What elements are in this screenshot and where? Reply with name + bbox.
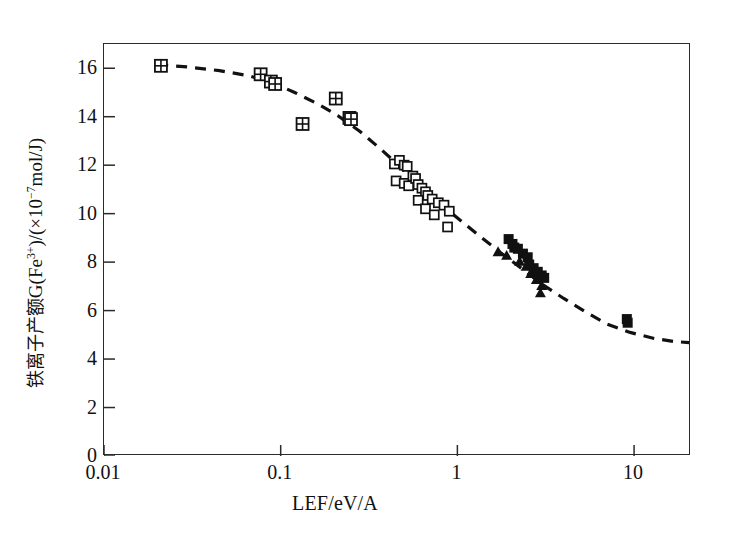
y-axis-title-sup-exponent: −7 xyxy=(25,186,38,199)
y-tick-label: 16 xyxy=(77,57,97,77)
x-tick-label: 1 xyxy=(451,462,461,482)
y-tick-label: 4 xyxy=(87,348,97,368)
x-axis-ticks xyxy=(104,445,634,456)
figure-root: 0246810121416 铁离子产额G(Fe3+)/(×10−7mol/J) … xyxy=(0,0,730,541)
y-axis-title-post: mol/J) xyxy=(25,138,46,187)
plot-area xyxy=(103,43,690,455)
y-axis-title-cjk: 铁离子产额 xyxy=(25,298,46,388)
y-tick-label: 12 xyxy=(77,154,97,174)
data-point-crossed-square xyxy=(345,113,357,125)
x-tick-label: 0.1 xyxy=(267,462,292,482)
y-tick-label: 6 xyxy=(87,300,97,320)
data-point-crossed-square xyxy=(297,118,309,130)
plot-canvas xyxy=(104,44,691,456)
y-axis-title: 铁离子产额G(Fe3+)/(×10−7mol/J) xyxy=(21,83,47,443)
y-tick-label: 2 xyxy=(87,397,97,417)
x-tick-label: 10 xyxy=(623,462,643,482)
data-points xyxy=(155,60,633,328)
y-axis-title-sup-charge: 3+ xyxy=(25,247,38,260)
data-point-open-square xyxy=(430,210,439,219)
x-axis-title-text: LEF/eV/A xyxy=(292,492,378,514)
data-point-open-square xyxy=(403,162,412,171)
data-point-crossed-square xyxy=(269,78,281,90)
y-tick-label: 14 xyxy=(77,106,97,126)
data-point-open-square xyxy=(443,222,452,231)
x-axis-tick-labels: 0.010.1110 xyxy=(103,462,690,490)
data-point-filled-square xyxy=(623,318,633,328)
y-axis-title-latin-pre: G(Fe xyxy=(25,259,46,298)
x-axis-title: LEF/eV/A xyxy=(0,492,730,515)
y-axis-title-mid: )/(×10 xyxy=(25,199,46,247)
data-point-open-square xyxy=(421,204,430,213)
data-point-crossed-square xyxy=(330,93,342,105)
data-point-filled-triangle xyxy=(493,246,504,256)
y-tick-label: 8 xyxy=(87,251,97,271)
y-tick-label: 10 xyxy=(77,203,97,223)
y-axis-ticks xyxy=(104,68,115,456)
data-point-crossed-square xyxy=(155,60,167,72)
y-axis-tick-labels: 0246810121416 xyxy=(55,43,97,455)
data-point-open-square xyxy=(445,207,454,216)
x-tick-label: 0.01 xyxy=(86,462,121,482)
data-point-filled-square xyxy=(539,273,549,283)
